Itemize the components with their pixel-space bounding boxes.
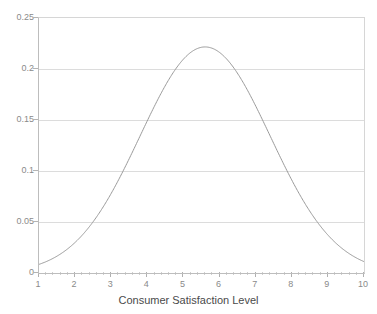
x-tick-label: 7 [252,279,257,289]
y-tick-label: 0.15 [16,114,34,124]
y-tick-label: 0.25 [16,12,34,22]
x-tick-label: 5 [180,279,185,289]
y-tick-label: 0.05 [16,216,34,226]
x-tick-label: 3 [108,279,113,289]
x-axis-title: Consumer Satisfaction Level [0,294,377,306]
y-axis-labels: 00.050.10.150.20.25 [0,0,34,290]
x-tick-label: 2 [72,279,77,289]
chart-container: Normal Distribution 00.050.10.150.20.25 … [0,0,377,314]
distribution-curve [39,18,364,273]
x-tick-label: 4 [144,279,149,289]
x-tick-label: 1 [35,279,40,289]
x-axis-labels: 12345678910 [0,279,377,293]
x-tick-label: 9 [324,279,329,289]
x-tick-label: 10 [358,279,368,289]
x-tick-label: 6 [216,279,221,289]
plot-area [38,17,365,274]
chart-title: Normal Distribution [0,0,377,2]
x-tick-label: 8 [288,279,293,289]
